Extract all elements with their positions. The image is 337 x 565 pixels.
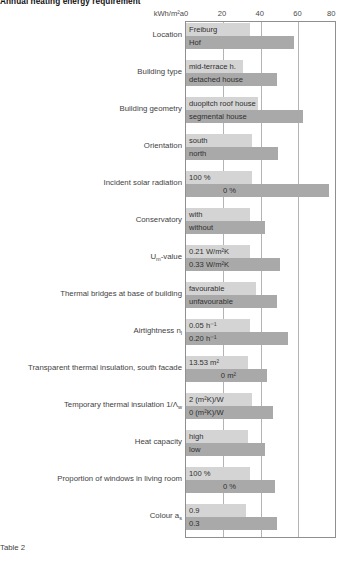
row-label-13: Colour as [150,511,182,521]
chart-row: Transparent thermal insulation, south fa… [0,354,337,391]
x-axis-header: kWh/m²a 020406080 [0,9,337,21]
bar-track-upper: 0.05 h⁻¹ [186,319,336,332]
bar-track-upper: mid-terrace h. [186,60,336,73]
bar-caption-upper: with [189,210,203,219]
chart-row: Temporary thermal insulation 1/Λw2 (m²K)… [0,391,337,428]
bar-track-lower: 0 % [186,184,336,197]
bar-track-lower: north [186,147,336,160]
bar-caption-upper: duopitch roof house [189,99,256,108]
chart-row: Heat capacityhighlow [0,428,337,465]
chart-row: LocationFreiburgHof [0,21,337,58]
x-axis-unit-label: kWh/m²a [154,9,184,18]
bar-track-lower: detached house [186,73,336,86]
bar-track-lower: Hof [186,36,336,49]
bar-caption-lower: north [189,149,206,158]
bar-caption-lower: segmental house [189,112,247,121]
row-label-12: Proportion of windows in living room [57,474,182,483]
bar-track-upper: 0.9 [186,504,336,517]
row-label-8: Airtightness nl [134,326,183,336]
bar-caption-upper: high [189,432,203,441]
row-label-0: Location [153,30,182,39]
bar-caption-upper: 100 % [189,469,211,478]
bar-track-upper: Freiburg [186,23,336,36]
bar-track-upper: 13.53 m² [186,356,336,369]
chart-rows: LocationFreiburgHofBuilding typemid-terr… [0,21,337,539]
bar-track-upper: favourable [186,282,336,295]
x-tick-20: 20 [218,9,226,18]
chart-row: Building geometryduopitch roof housesegm… [0,95,337,132]
chart-row: Orientationsouthnorth [0,132,337,169]
bar-lower [186,184,329,197]
chart-row: Um-value0.21 W/m²K0.33 W/m²K [0,243,337,280]
bar-caption-lower: 0 (m²K)/W [189,408,224,417]
bar-caption-lower: 0.33 W/m²K [189,260,229,269]
chart-row: Colour as0.90.3 [0,502,337,539]
bar-caption-upper: 100 % [189,173,211,182]
chart-row: Building typemid-terrace h.detached hous… [0,58,337,95]
bar-caption-lower: without [189,223,213,232]
row-label-2: Building geometry [120,104,182,113]
chart-row: Airtightness nl0.05 h⁻¹0.20 h⁻¹ [0,317,337,354]
chart-row: Thermal bridges at base of buildingfavou… [0,280,337,317]
x-tick-60: 60 [293,9,301,18]
bar-caption-upper: 0.05 h⁻¹ [189,321,217,330]
row-label-10: Temporary thermal insulation 1/Λw [64,400,182,410]
chart-row: Proportion of windows in living room100 … [0,465,337,502]
bar-caption-upper: south [189,136,208,145]
bar-caption-upper: favourable [189,284,224,293]
bar-caption-lower: Hof [189,38,201,47]
bar-caption-lower: unfavourable [189,297,233,306]
bar-caption-lower: 0 % [223,186,236,195]
bar-track-lower: segmental house [186,110,336,123]
row-label-5: Conservatory [136,215,182,224]
bar-caption-lower: 0 m² [221,371,236,380]
bar-track-lower: 0 % [186,480,336,493]
bar-lower [186,36,294,49]
bar-track-lower: low [186,443,336,456]
bar-track-upper: south [186,134,336,147]
bar-track-lower: 0.33 W/m²K [186,258,336,271]
row-label-11: Heat capacity [135,437,182,446]
bar-track-lower: unfavourable [186,295,336,308]
bar-track-upper: 2 (m²K)/W [186,393,336,406]
annual-heating-energy-chart: Annual heating energy requirement kWh/m²… [0,0,337,565]
row-label-4: Incident solar radiation [104,178,182,187]
bar-track-lower: without [186,221,336,234]
row-label-1: Building type [137,67,182,76]
x-tick-40: 40 [256,9,264,18]
chart-row: Conservatorywithwithout [0,206,337,243]
bar-caption-upper: Freiburg [189,25,217,34]
bar-caption-lower: low [189,445,200,454]
row-label-6: Um-value [150,252,182,262]
bar-caption-lower: 0.3 [189,519,200,528]
bar-caption-upper: 13.53 m² [189,358,219,367]
x-tick-80: 80 [327,9,335,18]
row-label-3: Orientation [144,141,182,150]
bar-track-upper: 0.21 W/m²K [186,245,336,258]
bar-caption-upper: 0.21 W/m²K [189,247,229,256]
bar-caption-upper: 2 (m²K)/W [189,395,224,404]
bar-track-upper: high [186,430,336,443]
bar-track-lower: 0.3 [186,517,336,530]
bar-track-upper: 100 % [186,171,336,184]
bar-track-upper: duopitch roof house [186,97,336,110]
row-label-7: Thermal bridges at base of building [60,289,182,298]
figure-caption: Table 2 [0,543,25,552]
bar-caption-upper: mid-terrace h. [189,62,236,71]
bar-lower [186,517,277,530]
chart-row: Incident solar radiation100 %0 % [0,169,337,206]
bar-caption-upper: 0.9 [189,506,200,515]
bar-track-upper: 100 % [186,467,336,480]
bar-track-lower: 0 m² [186,369,336,382]
bar-track-upper: with [186,208,336,221]
bar-track-lower: 0.20 h⁻¹ [186,332,336,345]
page-title: Annual heating energy requirement [0,0,141,6]
bar-caption-lower: 0 % [223,482,236,491]
bar-track-lower: 0 (m²K)/W [186,406,336,419]
bar-caption-lower: 0.20 h⁻¹ [189,334,217,343]
row-label-9: Transparent thermal insulation, south fa… [28,363,182,372]
x-tick-0: 0 [184,9,188,18]
bar-caption-lower: detached house [189,75,243,84]
